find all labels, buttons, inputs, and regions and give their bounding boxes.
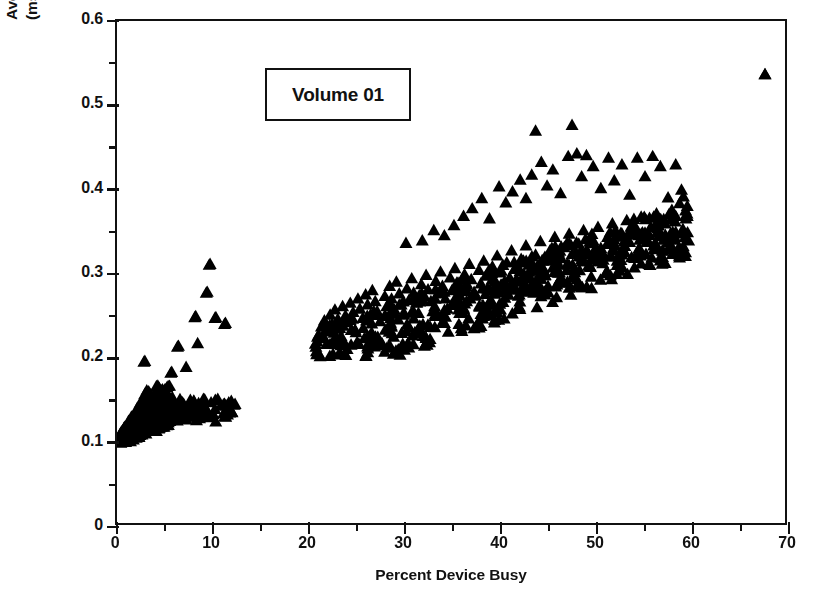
x-axis-minor-tick <box>452 523 455 531</box>
y-tick-label: 0.1 <box>33 432 103 450</box>
y-axis-minor-tick <box>109 484 117 487</box>
y-axis-major-tick <box>107 357 119 360</box>
x-axis-major-tick <box>116 522 119 534</box>
y-axis-minor-tick <box>109 399 117 402</box>
y-axis-major-tick <box>107 20 119 23</box>
y-axis-major-tick <box>107 441 119 444</box>
data-marker-layer <box>117 21 789 527</box>
x-axis-major-tick <box>692 522 695 534</box>
scatter-markers-canvas <box>117 21 789 527</box>
y-axis-major-tick <box>107 273 119 276</box>
y-tick-label: 0.2 <box>33 347 103 365</box>
x-tick-label: 30 <box>368 534 438 552</box>
y-axis-major-tick <box>107 188 119 191</box>
x-axis-major-tick <box>404 522 407 534</box>
y-tick-label: 0.3 <box>33 263 103 281</box>
x-axis-major-tick <box>596 522 599 534</box>
legend-label: Volume 01 <box>292 84 384 106</box>
x-axis-minor-tick <box>548 523 551 531</box>
x-axis-minor-tick <box>164 523 167 531</box>
x-axis-minor-tick <box>260 523 263 531</box>
x-tick-label: 50 <box>560 534 630 552</box>
y-axis-minor-tick <box>109 231 117 234</box>
x-axis-label: Percent Device Busy <box>115 566 787 584</box>
x-tick-label-group: 010203040506070 <box>115 534 815 560</box>
y-tick-label: 0.6 <box>33 10 103 28</box>
y-tick-label: 0.4 <box>33 179 103 197</box>
x-tick-label: 0 <box>80 534 150 552</box>
y-tick-label: 0.5 <box>33 94 103 112</box>
y-axis-minor-tick <box>109 62 117 65</box>
x-tick-label: 60 <box>656 534 726 552</box>
x-axis-major-tick <box>308 522 311 534</box>
x-axis-minor-tick <box>644 523 647 531</box>
y-tick-label-group: 00.10.20.30.40.50.6 <box>25 19 103 525</box>
y-axis-minor-tick <box>109 315 117 318</box>
y-axis-label: Average Pend Time for Channel Contention <box>2 0 22 20</box>
x-axis-major-tick <box>788 522 791 534</box>
x-axis-minor-tick <box>740 523 743 531</box>
x-axis-major-tick <box>500 522 503 534</box>
x-axis-major-tick <box>212 522 215 534</box>
scatter-plot-figure: Average Pend Time for Channel Contention… <box>0 0 816 600</box>
x-tick-label: 20 <box>272 534 342 552</box>
x-tick-label: 40 <box>464 534 534 552</box>
y-tick-label: 0 <box>33 516 103 534</box>
plot-area: Volume 01 <box>115 19 787 525</box>
x-axis-minor-tick <box>356 523 359 531</box>
y-axis-minor-tick <box>109 146 117 149</box>
x-tick-label: 10 <box>176 534 246 552</box>
y-axis-major-tick <box>107 104 119 107</box>
x-tick-label: 70 <box>752 534 816 552</box>
legend-box: Volume 01 <box>265 68 411 121</box>
